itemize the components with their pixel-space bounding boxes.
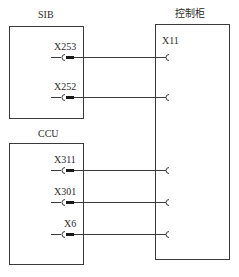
socket-icon [62, 168, 65, 174]
wiring-diagram [0, 0, 239, 277]
plug-icon [66, 56, 74, 59]
wire-x252 [51, 95, 169, 101]
receptacle-icon [166, 168, 169, 174]
connector-label-x6: X6 [64, 219, 76, 229]
plug-icon [66, 233, 74, 236]
cabinet-title: 控制柜 [175, 9, 205, 19]
receptacle-icon [166, 200, 169, 206]
connector-label-x253: X253 [54, 42, 76, 52]
socket-icon [62, 55, 65, 61]
wire-x6 [51, 232, 169, 238]
socket-icon [62, 200, 65, 206]
ccu-title: CCU [38, 129, 59, 139]
wire-x301 [51, 200, 169, 206]
receptacle-icon [166, 55, 169, 61]
connector-label-x311: X311 [54, 155, 76, 165]
plug-icon [66, 96, 74, 99]
plug-icon [66, 169, 74, 172]
socket-icon [62, 232, 65, 238]
connector-label-x252: X252 [54, 82, 76, 92]
wire-x311 [51, 168, 169, 174]
receptacle-icon [166, 95, 169, 101]
plug-icon [66, 201, 74, 204]
receptacle-icon [166, 232, 169, 238]
wire-x253 [51, 55, 169, 61]
sib-title: SIB [38, 10, 54, 20]
connector-label-x11: X11 [162, 36, 179, 46]
socket-icon [62, 95, 65, 101]
connector-label-x301: X301 [54, 187, 76, 197]
